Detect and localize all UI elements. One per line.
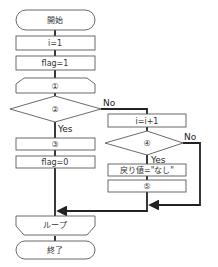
cond2-no-label: No — [103, 98, 116, 108]
cond2-label: ② — [51, 105, 58, 114]
cond2-no-path — [101, 109, 147, 114]
start-label: 開始 — [47, 15, 63, 25]
loop-end-label: ループ — [43, 221, 67, 230]
cond4-no-label: No — [184, 132, 197, 142]
set-flag0-label: flag=0 — [42, 158, 69, 167]
end-label: 終了 — [47, 245, 63, 255]
inc-i-label: i=i+1 — [136, 117, 159, 126]
init-i-label: i=1 — [48, 39, 62, 48]
cond4-yes-label: Yes — [150, 155, 166, 165]
step3-label: ③ — [51, 140, 58, 149]
merge-path — [58, 198, 147, 211]
init-flag-label: flag=1 — [42, 59, 69, 68]
loop-start-label: ① — [51, 82, 58, 91]
step5-label: ⑤ — [143, 182, 150, 191]
return-none-label: 戻り値="なし" — [120, 165, 174, 175]
flowchart: 開始 i=1 flag=1 ① ② No Yes ③ flag=0 i=i+1 … — [0, 0, 218, 267]
cond4-label: ④ — [143, 139, 150, 148]
cond2-yes-label: Yes — [57, 124, 73, 134]
